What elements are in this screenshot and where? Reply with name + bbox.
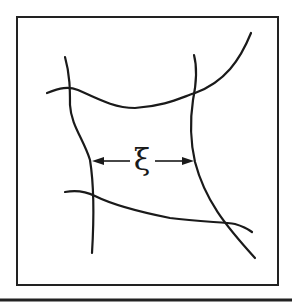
mesh-diagram: ξ	[0, 0, 292, 303]
arrow-right-head	[182, 157, 194, 165]
xi-label: ξ	[134, 142, 151, 177]
strand-top-horizontal	[47, 33, 251, 108]
strand-left-vertical	[65, 57, 93, 253]
arrow-left-head	[92, 157, 104, 165]
